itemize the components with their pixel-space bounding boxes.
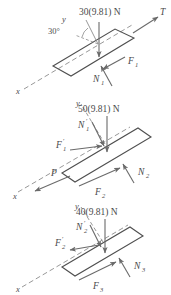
normal-3-label-3-base: N	[133, 261, 141, 271]
friction-1-reaction-label-2-sub: 1	[63, 145, 66, 152]
normal-1-reaction-label-2-sub: 1	[86, 125, 89, 132]
normal-label-1: N 1	[92, 74, 104, 86]
friction-3-label-3-sub: 3	[99, 286, 104, 293]
normal-2-reaction-label-3: N 2 ′	[75, 219, 88, 234]
normal-2-label-2: N 2	[137, 167, 150, 179]
normal-1-reaction-label-2-base: N	[77, 120, 85, 130]
applied-force-label-2: P	[50, 168, 57, 178]
friction-2-reaction-label-3: F 2 ′	[54, 235, 66, 250]
friction-1-reaction-arrow-2	[70, 146, 102, 150]
normal-label-1-sub: 1	[101, 79, 104, 86]
friction-arrow-1	[103, 57, 125, 69]
tension-arrow-1	[133, 17, 158, 33]
normal-3-label-3: N 3	[133, 261, 146, 273]
normal-1-reaction-arrow-2	[92, 122, 104, 146]
friction-2-label-2-sub: 2	[102, 192, 106, 199]
friction-label-1-sub: 1	[135, 61, 138, 68]
normal-3-arrow-3	[119, 258, 130, 277]
weight-label-3: 40(9.81) N	[76, 207, 118, 218]
normal-1-reaction-label-2: N 1 ′	[77, 117, 89, 132]
x-axis-label-2: x	[12, 191, 17, 201]
tension-label-1: T	[160, 7, 166, 17]
normal-2-reaction-label-3-base: N	[75, 222, 83, 232]
friction-2-arrow-2	[79, 168, 120, 186]
free-body-diagram-figure: 30(9.81) N 30° y x T F 1 N 1	[0, 0, 171, 295]
friction-2-reaction-label-3-prime: ′	[62, 235, 64, 243]
normal-2-reaction-label-3-sub: 2	[84, 227, 88, 234]
normal-2-label-2-base: N	[137, 167, 145, 177]
weight-label-2: 50(9.81) N	[78, 104, 120, 115]
x-axis-line-3	[22, 225, 128, 287]
normal-2-label-2-sub: 2	[146, 172, 150, 179]
y-axis-label-2: y	[75, 98, 80, 108]
friction-2-label-2: F 2	[94, 187, 106, 199]
diagram-top-block: 30(9.81) N 30° y x T F 1 N 1	[15, 7, 166, 96]
friction-label-1: F 1	[127, 56, 138, 68]
figure-canvas: 30(9.81) N 30° y x T F 1 N 1	[0, 0, 171, 295]
friction-3-label-3: F 3	[92, 281, 104, 293]
friction-2-label-2-base: F	[94, 187, 101, 197]
diagram-bottom-block: 40(9.81) N y x N 2 ′ F 2 ′ F 3 N 3	[15, 201, 146, 294]
y-axis-label-1: y	[61, 14, 66, 24]
normal-2-reaction-label-3-prime: ′	[84, 219, 86, 227]
block-body-1	[53, 29, 134, 76]
friction-1-reaction-label-2-prime: ′	[63, 137, 65, 145]
friction-1-reaction-label-2: F 1 ′	[55, 137, 66, 152]
y-axis-label-3: y	[74, 201, 79, 211]
angle-arc-1	[82, 28, 88, 37]
diagram-middle-block: 50(9.81) N y x N 1 ′ F 1 ′ P F 2 N 2	[12, 98, 151, 201]
normal-2-arrow-2	[123, 164, 134, 183]
normal-label-1-base: N	[92, 74, 100, 84]
friction-2-reaction-label-3-base: F	[54, 238, 61, 248]
x-axis-label-3: x	[15, 284, 20, 294]
normal-1-reaction-label-2-prime: ′	[86, 117, 88, 125]
angle-label-1: 30°	[48, 26, 60, 36]
applied-force-arrow-2	[35, 176, 70, 191]
x-axis-label-1: x	[15, 86, 20, 96]
x-axis-line-1	[24, 25, 132, 89]
normal-3-label-3-sub: 3	[141, 266, 146, 273]
weight-label-1: 30(9.81) N	[79, 7, 121, 18]
friction-2-reaction-label-3-sub: 2	[62, 243, 66, 250]
friction-3-label-3-base: F	[92, 281, 99, 291]
friction-1-reaction-label-2-base: F	[55, 140, 62, 150]
friction-label-1-base: F	[127, 56, 134, 66]
